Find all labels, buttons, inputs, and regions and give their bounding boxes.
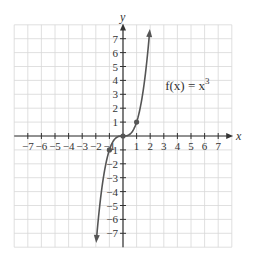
svg-text:5: 5 — [113, 61, 119, 73]
function-label: f(x) = x3 — [165, 76, 210, 93]
svg-text:−4: −4 — [106, 186, 118, 198]
svg-text:−3: −3 — [106, 172, 118, 184]
function-label-base: f(x) = x — [165, 78, 205, 93]
svg-text:7: 7 — [113, 33, 119, 45]
function-label-exponent: 3 — [205, 76, 210, 86]
svg-text:−6: −6 — [36, 140, 48, 152]
svg-text:−5: −5 — [106, 200, 118, 212]
svg-text:4: 4 — [175, 140, 181, 152]
svg-text:2: 2 — [113, 102, 119, 114]
svg-text:3: 3 — [161, 140, 167, 152]
cubic-function-graph: −7−6−5−4−3−2−11234567−7−6−5−4−3−2−112345… — [0, 0, 253, 260]
svg-text:−5: −5 — [49, 140, 61, 152]
data-point — [120, 133, 125, 138]
svg-text:2: 2 — [147, 140, 153, 152]
svg-text:−2: −2 — [106, 158, 118, 170]
svg-text:1: 1 — [134, 140, 140, 152]
y-axis-label: y — [119, 10, 126, 24]
svg-text:6: 6 — [202, 140, 208, 152]
svg-text:−3: −3 — [76, 140, 88, 152]
svg-text:−6: −6 — [106, 213, 118, 225]
svg-text:4: 4 — [113, 74, 119, 86]
svg-text:−2: −2 — [90, 140, 102, 152]
svg-text:3: 3 — [113, 88, 119, 100]
x-axis-label: x — [235, 129, 242, 143]
svg-text:1: 1 — [113, 116, 119, 128]
data-point — [134, 120, 139, 125]
data-point — [107, 147, 112, 152]
svg-text:6: 6 — [113, 47, 119, 59]
svg-text:−7: −7 — [106, 227, 118, 239]
svg-text:−4: −4 — [63, 140, 75, 152]
svg-text:−7: −7 — [22, 140, 34, 152]
svg-text:7: 7 — [215, 140, 221, 152]
svg-text:5: 5 — [188, 140, 194, 152]
